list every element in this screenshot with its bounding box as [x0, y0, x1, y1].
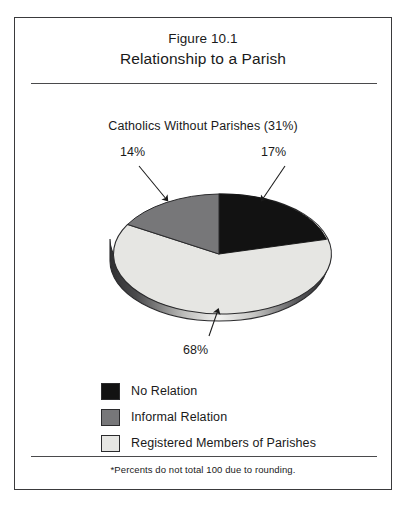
slice-label-no-relation: 17%	[261, 145, 286, 159]
callout-heading: Catholics Without Parishes (31%)	[15, 119, 391, 133]
leader-line-no-relation	[262, 166, 285, 200]
legend-label-registered-members: Registered Members of Parishes	[131, 436, 316, 450]
leader-line-registered	[209, 310, 218, 336]
slice-label-registered: 68%	[183, 343, 208, 357]
legend: No Relation Informal Relation Registered…	[101, 378, 371, 456]
legend-label-informal-relation: Informal Relation	[131, 410, 227, 424]
legend-item-no-relation: No Relation	[101, 378, 371, 404]
figure-number: Figure 10.1	[15, 29, 391, 48]
slice-label-informal: 14%	[120, 145, 145, 159]
pie-slices	[113, 194, 331, 314]
pie-slice-registered	[113, 194, 331, 314]
legend-swatch-registered-members	[101, 435, 120, 452]
leader-lines	[139, 166, 285, 336]
legend-swatch-informal-relation	[101, 409, 120, 426]
legend-label-no-relation: No Relation	[131, 384, 197, 398]
divider-bottom	[31, 456, 377, 457]
leader-line-informal	[139, 166, 167, 200]
pie-slice-no-relation	[219, 194, 327, 254]
footnote: *Percents do not total 100 due to roundi…	[15, 464, 391, 475]
legend-item-informal-relation: Informal Relation	[101, 404, 371, 430]
pie-3d-rim	[110, 239, 328, 321]
pie-slice-informal	[128, 194, 219, 254]
legend-swatch-no-relation	[101, 383, 120, 400]
legend-item-registered-members: Registered Members of Parishes	[101, 430, 371, 456]
title-block: Figure 10.1 Relationship to a Parish	[15, 29, 391, 69]
page-title: Relationship to a Parish	[15, 48, 391, 69]
figure-frame: Figure 10.1 Relationship to a Parish Cat…	[14, 17, 392, 490]
divider-top	[31, 83, 377, 84]
